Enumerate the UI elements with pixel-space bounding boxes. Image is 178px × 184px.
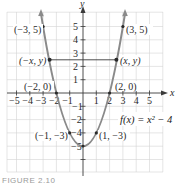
parabola-graph: x y −5 −4 −3 −2 −1 1 2 3 4 5 5 4 3 2 1 −… <box>0 0 178 184</box>
x-tick-label: −5 <box>9 95 20 106</box>
y-tick-label: −2 <box>71 114 82 125</box>
point-label-3-5: (3, 5) <box>126 24 148 36</box>
y-tick-label: 2 <box>73 61 78 72</box>
x-tick-label: −4 <box>22 95 33 106</box>
y-tick-label: 5 <box>73 21 78 32</box>
vertex-point <box>82 145 85 148</box>
point-label-neg1-neg3: (−1, −3) <box>35 130 68 142</box>
y-tick-label: 4 <box>73 34 78 45</box>
y-tick-label: −1 <box>72 101 83 112</box>
point-label-1-neg3: (1, −3) <box>99 130 126 142</box>
x-axis-arrow-icon <box>161 91 168 96</box>
point-negx-y <box>48 58 52 62</box>
point-label-neg2-0: (−2, 0) <box>24 81 51 93</box>
point-2-0 <box>108 91 111 94</box>
figure-caption: FIGURE 2.10 <box>2 176 56 184</box>
y-tick-label: 3 <box>73 48 78 59</box>
point-label-negx-y: (−x, y) <box>19 55 47 67</box>
y-axis-label: y <box>79 0 85 9</box>
x-tick-label: −3 <box>36 95 47 106</box>
point-label-2-0: (2, 0) <box>115 81 137 93</box>
x-axis-label: x <box>169 87 175 98</box>
point-label-x-y: (x, y) <box>120 55 141 67</box>
grid <box>7 12 163 172</box>
y-tick-label: 1 <box>73 74 78 85</box>
x-tick-label: 5 <box>147 95 152 106</box>
x-tick-label: 4 <box>134 95 139 106</box>
point-x-y <box>114 58 118 62</box>
point-neg2-0 <box>55 91 58 94</box>
function-label: f(x) = x² − 4 <box>120 114 173 126</box>
point-1-neg3 <box>95 131 98 134</box>
x-tick-label: 3 <box>120 95 125 106</box>
point-label-neg3-5: (−3, 5) <box>14 24 41 36</box>
point-neg1-neg3 <box>68 131 71 134</box>
x-tick-label: 1 <box>94 95 99 106</box>
point-3-5 <box>121 25 124 28</box>
